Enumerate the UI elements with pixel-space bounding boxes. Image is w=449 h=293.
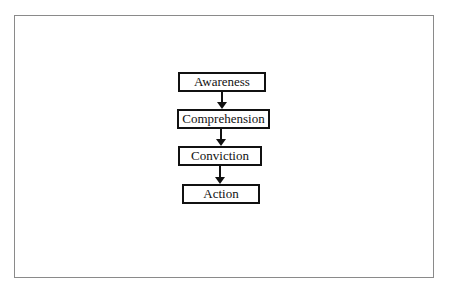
node-awareness-label: Awareness bbox=[194, 74, 250, 89]
node-conviction: Conviction bbox=[178, 146, 262, 166]
arrow-down-icon bbox=[215, 166, 225, 184]
arrow-down-icon bbox=[216, 129, 226, 146]
node-conviction-label: Conviction bbox=[191, 148, 249, 163]
node-comprehension: Comprehension bbox=[177, 109, 270, 129]
arrow-down-icon bbox=[217, 92, 227, 109]
node-action: Action bbox=[182, 184, 260, 204]
node-comprehension-label: Comprehension bbox=[182, 111, 264, 126]
node-action-label: Action bbox=[203, 186, 238, 201]
node-awareness: Awareness bbox=[178, 72, 266, 92]
